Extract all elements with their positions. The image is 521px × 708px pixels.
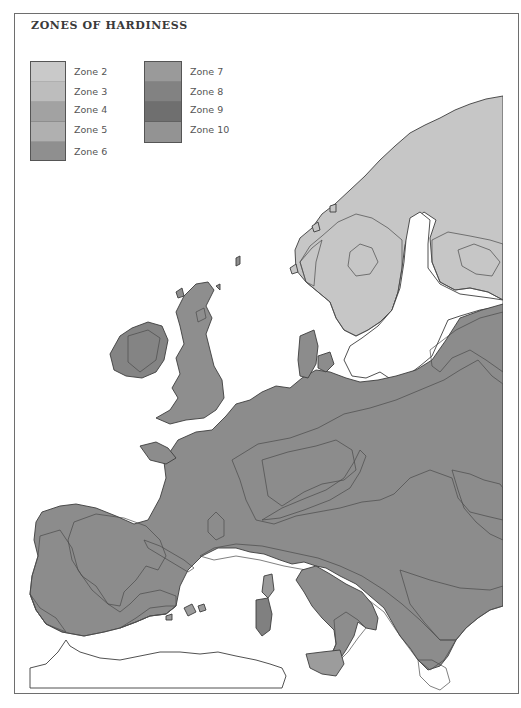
europe-map [0, 0, 521, 708]
british-isles [110, 256, 240, 424]
corsica [262, 574, 274, 598]
north-africa [30, 640, 286, 688]
brittany [140, 442, 176, 464]
sicily [306, 650, 344, 676]
sardinia [256, 598, 272, 636]
